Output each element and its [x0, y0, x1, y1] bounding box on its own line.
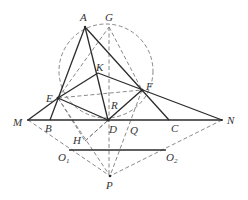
label-H: H [72, 134, 82, 146]
diagram-svg: A G K E F R M B D Q C N H O1 O2 P [0, 0, 248, 200]
label-R: R [110, 99, 118, 111]
label-B: B [45, 122, 52, 134]
label-O1: O1 [58, 151, 69, 165]
solid-lines [28, 27, 222, 150]
label-E: E [45, 92, 53, 104]
label-P: P [105, 179, 113, 191]
label-Q: Q [130, 124, 138, 136]
label-M: M [12, 116, 23, 128]
circle [59, 24, 153, 118]
labels: A G K E F R M B D Q C N H O1 O2 P [12, 11, 235, 191]
label-O2: O2 [166, 151, 178, 165]
label-D: D [108, 123, 117, 135]
label-C: C [171, 122, 179, 134]
label-N: N [226, 114, 235, 126]
geometry-diagram: A G K E F R M B D Q C N H O1 O2 P [0, 0, 248, 200]
label-K: K [95, 61, 104, 73]
label-A: A [79, 11, 87, 23]
label-G: G [105, 11, 113, 23]
label-F: F [145, 80, 153, 92]
